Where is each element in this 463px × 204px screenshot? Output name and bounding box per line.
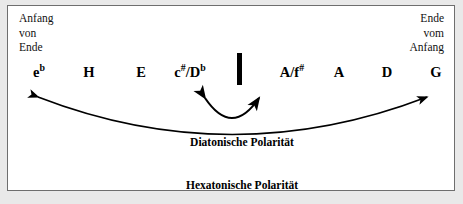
figure-frame: Anfang von Ende Ende vom Anfang eb H E c… — [7, 5, 455, 191]
hexatonic-polarity-label: Hexatonische Polarität — [186, 179, 298, 191]
diatonic-arc-path — [205, 98, 259, 118]
vertical-divider-bar — [237, 53, 242, 85]
polarity-arcs — [8, 6, 454, 190]
figure-canvas: Anfang von Ende Ende vom Anfang eb H E c… — [0, 0, 463, 204]
hexatonic-arc-path — [38, 97, 427, 135]
diatonic-polarity-label: Diatonische Polarität — [190, 136, 294, 148]
